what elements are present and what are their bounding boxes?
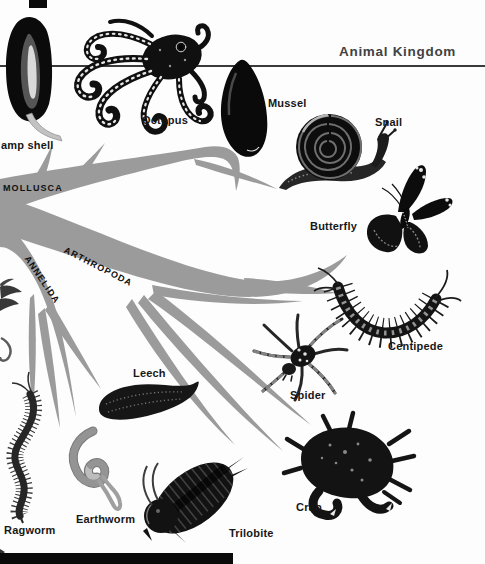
- octopus-label: Octopus: [142, 114, 188, 126]
- earthworm-illustration: [73, 431, 120, 509]
- branch-label-mollusca: MOLLUSCA: [3, 183, 63, 193]
- branch-arthropoda: [0, 195, 347, 297]
- mussel-illustration: [221, 60, 267, 157]
- earthworm-label: Earthworm: [76, 513, 135, 525]
- lamp-shell-label: amp shell: [1, 139, 54, 151]
- spider-illustration: [254, 315, 347, 400]
- mussel-label: Mussel: [268, 97, 307, 109]
- animal-kingdom-diagram: Animal Kingdom: [0, 0, 485, 564]
- ragworm-label: Ragworm: [4, 524, 56, 536]
- trilobite-label: Trilobite: [229, 527, 274, 539]
- centipede-label: Centipede: [388, 340, 443, 352]
- butterfly-label: Butterfly: [310, 220, 357, 232]
- leech-illustration: [99, 382, 199, 420]
- ragworm-illustration: [12, 372, 34, 523]
- diagram-canvas: [0, 0, 485, 564]
- scan-edge-bar: [0, 553, 233, 564]
- leech-label: Leech: [133, 367, 166, 379]
- butterfly-illustration: [367, 165, 453, 253]
- scan-edge-mark: [29, 0, 47, 8]
- snail-label: Snail: [375, 116, 402, 128]
- page-title: Animal Kingdom: [339, 44, 456, 59]
- spider-label: Spider: [290, 389, 325, 401]
- crab-label: Crab: [296, 501, 322, 513]
- lamp-shell-illustration: [6, 17, 62, 141]
